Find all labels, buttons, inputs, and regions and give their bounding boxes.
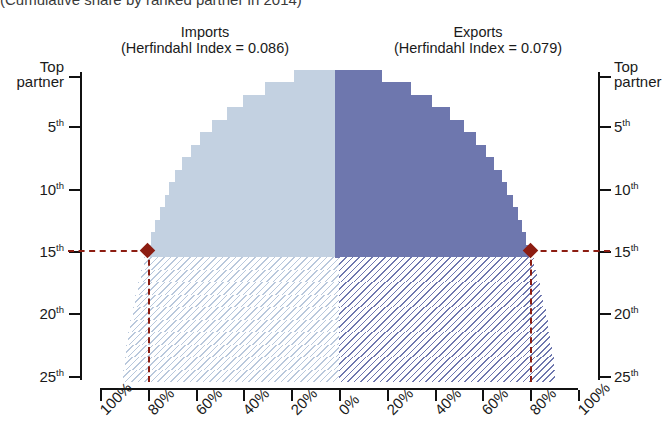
step-bar	[191, 145, 339, 158]
step-bar	[339, 195, 513, 208]
y-tick-right-1	[600, 76, 611, 78]
imports-herfindahl: (Herfindahl Index = 0.086)	[85, 40, 325, 56]
step-bar	[339, 232, 526, 245]
step-bar	[160, 207, 339, 220]
chart-title: (Cumulative share by ranked partner in 2…	[0, 0, 420, 8]
step-bar	[141, 270, 339, 283]
y-tick-right-10	[600, 189, 611, 191]
step-bar	[339, 282, 540, 295]
y-label-left-10: 10th	[0, 180, 64, 198]
step-bar	[339, 370, 555, 382]
y-label-right-top-partner: Toppartner	[614, 59, 672, 89]
step-bar	[339, 295, 543, 308]
step-bar	[339, 207, 518, 220]
step-bar	[339, 82, 411, 95]
y-tick-left-1	[69, 76, 80, 78]
step-bar	[339, 145, 486, 158]
step-bar	[339, 270, 537, 283]
highlight-vline-right	[530, 250, 532, 382]
step-bar	[169, 182, 339, 195]
y-label-right-5: 5th	[614, 117, 672, 135]
step-bar	[144, 257, 339, 270]
step-bar	[212, 120, 339, 133]
y-label-left-15: 15th	[0, 242, 64, 260]
y-label-right-15: 15th	[614, 242, 672, 260]
exports-plot-half	[339, 70, 578, 382]
chart-root: (Cumulative share by ranked partner in 2…	[0, 0, 672, 447]
step-bar	[339, 157, 494, 170]
step-bar	[339, 257, 534, 270]
step-bar	[151, 232, 339, 245]
y-label-left-25: 25th	[0, 367, 64, 385]
step-bar	[175, 170, 339, 183]
step-bar	[339, 120, 464, 133]
y-axis-left-line	[80, 72, 82, 380]
exports-label: Exports	[348, 24, 608, 40]
exports-caption: Exports (Herfindahl Index = 0.079)	[348, 24, 608, 56]
step-bar	[339, 332, 550, 345]
step-bar	[265, 82, 339, 95]
step-bar	[130, 320, 339, 333]
step-bar	[339, 320, 548, 333]
highlight-vline-left	[148, 250, 150, 382]
y-label-right-10: 10th	[614, 180, 672, 198]
step-bar	[339, 245, 530, 258]
step-bar	[133, 307, 339, 320]
y-label-right-25: 25th	[614, 367, 672, 385]
imports-caption: Imports (Herfindahl Index = 0.086)	[85, 24, 325, 56]
y-tick-left-25	[69, 376, 80, 378]
step-bar	[128, 332, 339, 345]
step-bar	[339, 345, 552, 358]
x-label-0: 100%	[96, 379, 135, 418]
highlight-hline-right	[530, 250, 610, 252]
step-bar	[227, 107, 339, 120]
exports-herfindahl: (Herfindahl Index = 0.079)	[348, 40, 608, 56]
y-tick-left-20	[69, 313, 80, 315]
step-bar	[165, 195, 339, 208]
step-bar	[135, 295, 339, 308]
step-bar	[339, 170, 502, 183]
step-bar	[339, 132, 476, 145]
step-bar	[339, 107, 450, 120]
imports-plot-half	[100, 70, 339, 382]
y-tick-right-20	[600, 313, 611, 315]
y-tick-right-5	[600, 126, 611, 128]
y-label-left-top-partner: Toppartner	[0, 59, 64, 89]
step-bar	[243, 95, 339, 108]
step-bar	[155, 220, 339, 233]
step-bar	[339, 307, 546, 320]
step-bar	[126, 345, 339, 358]
highlight-hline-left	[68, 250, 148, 252]
y-label-right-20: 20th	[614, 304, 672, 322]
step-bar	[339, 70, 382, 83]
step-bar	[125, 357, 339, 370]
y-tick-left-10	[69, 189, 80, 191]
step-bar	[182, 157, 339, 170]
step-bar	[148, 245, 339, 258]
imports-label: Imports	[85, 24, 325, 40]
y-axis-right-line	[598, 72, 600, 380]
step-bar	[294, 70, 339, 83]
step-bar	[339, 182, 507, 195]
y-label-left-5: 5th	[0, 117, 64, 135]
step-bar	[339, 357, 554, 370]
step-bar	[138, 282, 339, 295]
step-bar	[200, 132, 339, 145]
step-bar	[123, 370, 339, 382]
step-bar	[339, 95, 432, 108]
plot-area	[100, 70, 578, 382]
step-bar	[339, 220, 522, 233]
y-tick-left-5	[69, 126, 80, 128]
y-label-left-20: 20th	[0, 304, 64, 322]
x-label-10: 100%	[574, 379, 613, 418]
y-tick-right-25	[600, 376, 611, 378]
